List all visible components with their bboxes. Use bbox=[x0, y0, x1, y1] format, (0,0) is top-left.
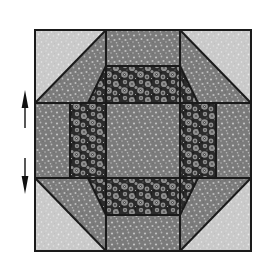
patch-ring-right-dark bbox=[180, 103, 216, 178]
grainline-arrow-down bbox=[22, 158, 29, 194]
patch-ring-left-dark bbox=[70, 103, 106, 178]
patch-ring-top-dark bbox=[88, 66, 198, 103]
patch-ring-bottom-dark bbox=[88, 178, 198, 215]
quilt-block-diagram bbox=[0, 0, 264, 268]
patch-center-medium bbox=[106, 103, 180, 178]
grainline-arrow-up bbox=[22, 90, 29, 128]
grainline-arrow-up-head bbox=[22, 90, 29, 108]
screenshot-root bbox=[0, 0, 264, 268]
block-patches bbox=[35, 30, 251, 251]
grainline-arrow-down-head bbox=[22, 176, 29, 194]
